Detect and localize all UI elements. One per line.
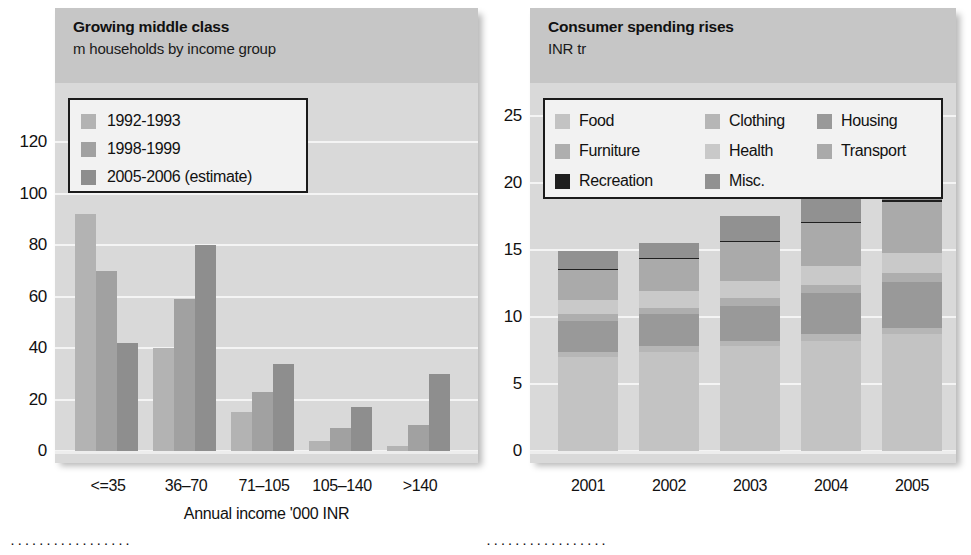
legend-label: Furniture bbox=[579, 142, 640, 160]
right-chart-segment bbox=[720, 241, 780, 242]
legend-label: 1998-1999 bbox=[107, 140, 180, 158]
legend-label: Housing bbox=[841, 112, 897, 130]
right-chart-segment bbox=[882, 200, 942, 201]
right-chart-y-tick: 0 bbox=[478, 442, 522, 459]
left-chart-y-tick: 80 bbox=[0, 236, 47, 253]
right-chart-bar bbox=[882, 169, 942, 451]
right-chart-segment bbox=[639, 352, 699, 451]
right-chart-bar bbox=[720, 216, 780, 451]
left-chart-y-tick: 40 bbox=[0, 339, 47, 356]
legend-item: Food bbox=[555, 106, 614, 136]
right-chart-segment bbox=[882, 202, 942, 253]
right-chart-segment bbox=[801, 341, 861, 451]
legend-swatch bbox=[555, 144, 570, 159]
left-chart-gridline bbox=[55, 244, 478, 246]
left-chart-bar bbox=[408, 425, 429, 451]
right-chart-segment bbox=[639, 258, 699, 259]
right-footer-dots: ················· bbox=[486, 538, 608, 548]
right-chart-segment bbox=[558, 314, 618, 321]
right-chart-segment bbox=[801, 223, 861, 266]
left-chart-baseline bbox=[55, 451, 478, 454]
right-chart-legend: FoodClothingHousingFurnitureHealthTransp… bbox=[543, 98, 943, 199]
right-chart-segment bbox=[639, 308, 699, 315]
legend-swatch bbox=[705, 174, 720, 189]
right-chart-x-tick: 2001 bbox=[546, 478, 630, 494]
left-chart-bar bbox=[273, 364, 294, 451]
right-chart-segment bbox=[882, 253, 942, 273]
legend-swatch bbox=[81, 142, 96, 157]
left-chart-panel: Growing middle class m households by inc… bbox=[55, 8, 478, 463]
right-chart-panel: Consumer spending rises INR tr bbox=[530, 8, 956, 463]
right-chart-segment bbox=[720, 298, 780, 306]
right-chart-segment bbox=[639, 291, 699, 307]
left-chart-gridline bbox=[55, 296, 478, 298]
right-chart-segment bbox=[558, 269, 618, 270]
left-chart-bar bbox=[387, 446, 408, 451]
legend-row: FoodClothingHousing bbox=[555, 106, 941, 136]
legend-item: Recreation bbox=[555, 166, 653, 196]
right-chart-baseline bbox=[530, 451, 956, 454]
legend-row: RecreationMisc. bbox=[555, 166, 941, 196]
legend-item: Transport bbox=[817, 136, 906, 166]
right-chart-segment bbox=[558, 321, 618, 352]
right-chart-subtitle: INR tr bbox=[548, 38, 956, 59]
right-chart-x-tick: 2004 bbox=[789, 478, 873, 494]
right-chart-segment bbox=[639, 259, 699, 291]
left-chart-bar bbox=[429, 374, 450, 451]
right-chart-segment bbox=[720, 281, 780, 298]
left-chart-bar bbox=[96, 271, 117, 451]
right-chart-x-tick: 2003 bbox=[708, 478, 792, 494]
right-chart-segment bbox=[720, 346, 780, 451]
right-chart-title: Consumer spending rises bbox=[548, 17, 956, 36]
right-chart-segment bbox=[801, 222, 861, 223]
left-chart-bar bbox=[174, 299, 195, 451]
right-chart-segment bbox=[558, 357, 618, 451]
left-chart-title: Growing middle class bbox=[73, 17, 478, 36]
left-chart-x-tick: >140 bbox=[373, 478, 467, 494]
left-chart-bar bbox=[117, 343, 138, 451]
legend-swatch bbox=[705, 114, 720, 129]
legend-item: Health bbox=[705, 136, 773, 166]
right-chart-segment bbox=[720, 306, 780, 341]
right-chart-segment bbox=[639, 243, 699, 258]
right-chart-segment bbox=[558, 251, 618, 268]
right-chart-bar bbox=[801, 195, 861, 451]
right-chart-header: Consumer spending rises INR tr bbox=[530, 8, 956, 83]
left-chart-bar bbox=[231, 412, 252, 451]
left-chart-bar bbox=[309, 441, 330, 451]
right-chart-segment bbox=[639, 346, 699, 351]
right-chart-x-tick: 2005 bbox=[870, 478, 954, 494]
legend-label: 1992-1993 bbox=[107, 112, 180, 130]
legend-swatch bbox=[817, 114, 832, 129]
right-chart-y-tick: 15 bbox=[478, 241, 522, 258]
right-chart-segment bbox=[720, 216, 780, 240]
left-chart-subtitle: m households by income group bbox=[73, 38, 478, 59]
right-chart-segment bbox=[801, 285, 861, 293]
left-chart-bar bbox=[195, 245, 216, 451]
legend-item: 1992-1993 bbox=[81, 107, 306, 135]
legend-swatch bbox=[817, 144, 832, 159]
left-chart-bar bbox=[153, 348, 174, 451]
left-chart-y-tick: 20 bbox=[0, 391, 47, 408]
right-chart-segment bbox=[801, 334, 861, 341]
left-chart-bar bbox=[252, 392, 273, 451]
right-chart-y-tick: 25 bbox=[478, 107, 522, 124]
left-chart-bar bbox=[75, 214, 96, 451]
legend-label: Health bbox=[729, 142, 773, 160]
left-chart-y-tick: 100 bbox=[0, 185, 47, 202]
left-chart-y-tick: 60 bbox=[0, 288, 47, 305]
legend-item: 2005-2006 (estimate) bbox=[81, 163, 306, 191]
left-chart-gridline bbox=[55, 193, 478, 195]
right-chart-segment bbox=[558, 352, 618, 357]
right-chart-y-tick: 5 bbox=[478, 375, 522, 392]
legend-item: Clothing bbox=[705, 106, 785, 136]
left-footer-dots: ················· bbox=[10, 538, 132, 548]
right-chart-segment bbox=[720, 242, 780, 281]
figure-root: Growing middle class m households by inc… bbox=[0, 0, 971, 555]
legend-item: Misc. bbox=[705, 166, 765, 196]
right-chart-segment bbox=[882, 273, 942, 282]
right-chart-segment bbox=[801, 266, 861, 285]
legend-label: Misc. bbox=[729, 172, 765, 190]
right-chart-segment bbox=[558, 270, 618, 299]
right-chart-segment bbox=[882, 328, 942, 335]
